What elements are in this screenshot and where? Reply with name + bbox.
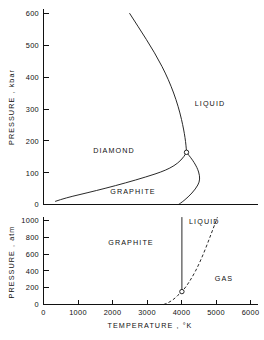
upper-ytick-0: 0	[35, 200, 39, 209]
lower-xtick-5000: 5000	[207, 308, 225, 317]
lower-triple-point-marker	[180, 289, 184, 293]
upper-label-liquid: LIQUID	[195, 99, 226, 108]
upper-diamond-liquid-curve	[130, 14, 187, 153]
upper-triple-point-marker	[184, 150, 188, 154]
upper-ytick-400: 400	[26, 73, 39, 82]
upper-graphite-liquid-curve	[179, 153, 200, 204]
lower-ytick-800: 800	[26, 233, 39, 242]
upper-y-axis-title: PRESSURE , kbar	[7, 69, 16, 145]
lower-ytick-0: 0	[35, 300, 39, 309]
upper-ytick-500: 500	[26, 41, 39, 50]
upper-label-diamond: DIAMOND	[93, 146, 135, 155]
lower-xtick-4000: 4000	[173, 308, 191, 317]
lower-xtick-2000: 2000	[104, 308, 122, 317]
lower-label-graphite: GRAPHITE	[108, 238, 154, 247]
lower-xtick-0: 0	[41, 308, 45, 317]
lower-panel: 1000 800 600 400 200 0 0 1000 2000 3000 …	[7, 216, 259, 330]
lower-xtick-1000: 1000	[69, 308, 87, 317]
lower-x-ticks	[44, 300, 251, 305]
carbon-phase-diagram-figure: 600 500 400 300 200 100 0 PRESSURE , kba…	[0, 0, 264, 340]
lower-label-gas: GAS	[215, 274, 233, 283]
upper-ytick-200: 200	[26, 137, 39, 146]
lower-x-axis-title: TEMPERATURE , °K	[107, 321, 192, 330]
upper-ytick-300: 300	[26, 105, 39, 114]
lower-ytick-1000: 1000	[21, 216, 39, 225]
lower-xtick-6000: 6000	[242, 308, 260, 317]
lower-ytick-200: 200	[26, 283, 39, 292]
upper-panel: 600 500 400 300 200 100 0 PRESSURE , kba…	[7, 9, 258, 209]
lower-label-liquid: LIQUID	[189, 217, 220, 226]
lower-vaporization-curve	[164, 217, 218, 304]
lower-ytick-600: 600	[26, 250, 39, 259]
upper-y-ticks	[44, 14, 49, 205]
lower-xtick-3000: 3000	[138, 308, 156, 317]
upper-ytick-600: 600	[26, 9, 39, 18]
upper-ytick-100: 100	[26, 169, 39, 178]
upper-label-graphite: GRAPHITE	[110, 187, 156, 196]
lower-y-axis-title: PRESSURE , atm	[7, 226, 16, 299]
lower-y-ticks	[44, 220, 49, 304]
lower-ytick-400: 400	[26, 267, 39, 276]
